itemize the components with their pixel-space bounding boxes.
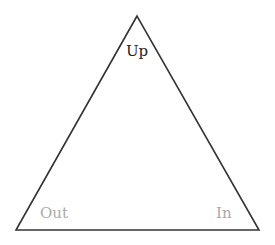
label-out: Out [40,204,68,222]
label-up: Up [126,42,148,60]
triangle-diagram: Up Out In [0,0,275,245]
label-in: In [216,204,232,222]
